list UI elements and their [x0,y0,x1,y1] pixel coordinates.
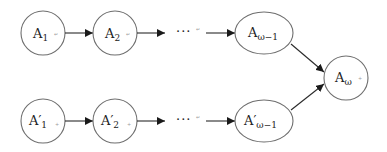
svg-text:+: + [127,121,131,127]
svg-text:···: ··· [176,112,191,127]
diagram-canvas: A1 ↵ A2 ↵ ··· ↵ Aω−1 A′1 + A′2 + ··· ↵ A… [0,0,387,152]
node-a-prime-2: A′2 + [93,99,137,143]
svg-text:+: + [55,121,59,127]
edge-aw1-awplus [291,44,324,72]
svg-text:↵: ↵ [126,31,130,37]
svg-text:↵: ↵ [196,26,200,32]
node-a1: A1 ↵ [21,11,65,55]
svg-text:+: + [358,75,362,81]
node-a-prime-1: A′1 + [21,99,65,143]
node-a-prime-omega-minus-1: A′ω−1 [235,100,293,142]
node-a-omega-plus: Aω + [324,56,368,100]
svg-text:↵: ↵ [196,114,200,120]
node-a2: A2 ↵ [93,11,137,55]
svg-text:↵: ↵ [54,31,58,37]
edge-aw1p-awplus [291,84,324,110]
ellipsis-top: ··· ↵ [176,24,200,39]
ellipsis-bottom: ··· ↵ [176,112,200,127]
node-a-omega-minus-1: Aω−1 [235,12,293,54]
svg-text:···: ··· [176,24,191,39]
